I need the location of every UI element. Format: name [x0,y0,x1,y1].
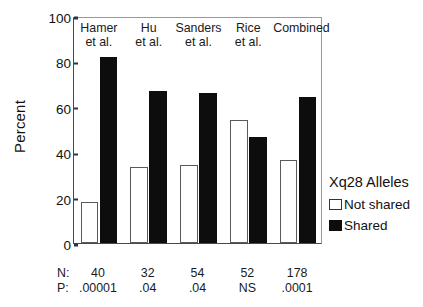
stats-n-value-4: 178 [267,266,327,280]
y-tick-label: 40 [56,147,74,162]
y-tick-label: 20 [56,192,74,207]
y-tick-80: 80 [56,56,74,71]
bar-not-shared-3 [230,120,248,243]
y-tick-20: 20 [56,192,74,207]
legend-item-shared: Shared [329,218,423,233]
white-square-icon [329,199,342,210]
xq28-alleles-bar-chart: Percent 020406080100 Hameret al.Huet al.… [0,0,423,307]
bar-shared-4 [299,97,317,243]
bar-not-shared-2 [180,165,198,243]
bar-shared-2 [199,93,217,243]
bar-series-container [74,18,321,243]
y-tick-label: 60 [56,101,74,116]
y-tick-0: 0 [63,238,74,253]
bar-not-shared-1 [130,167,148,243]
bar-shared-3 [249,137,267,243]
bar-not-shared-0 [81,202,99,243]
legend-item-not-shared: Not shared [329,197,423,212]
legend-item-label: Shared [344,218,388,233]
bar-not-shared-4 [280,160,298,243]
plot-area: 020406080100 Hameret al.Huet al.Sanderse… [73,17,322,244]
y-tick-40: 40 [56,147,74,162]
y-tick-label: 100 [48,11,74,26]
y-tick-label: 0 [63,238,74,253]
y-tick-mark [74,244,78,246]
bar-shared-1 [149,91,167,243]
stats-table: N: P: 40.0000132.0454.0452NS178.0001 [0,266,340,298]
bar-shared-0 [100,57,118,243]
legend-items: Not sharedShared [329,197,423,233]
legend-title: Xq28 Alleles [329,174,423,190]
y-tick-60: 60 [56,101,74,116]
stats-p-value-4: .0001 [267,281,327,295]
black-square-icon [329,220,342,231]
legend: Xq28 Alleles Not sharedShared [329,174,423,239]
y-axis-title: Percent [11,77,28,177]
y-tick-100: 100 [48,11,74,26]
legend-item-label: Not shared [344,197,410,212]
y-tick-label: 80 [56,56,74,71]
